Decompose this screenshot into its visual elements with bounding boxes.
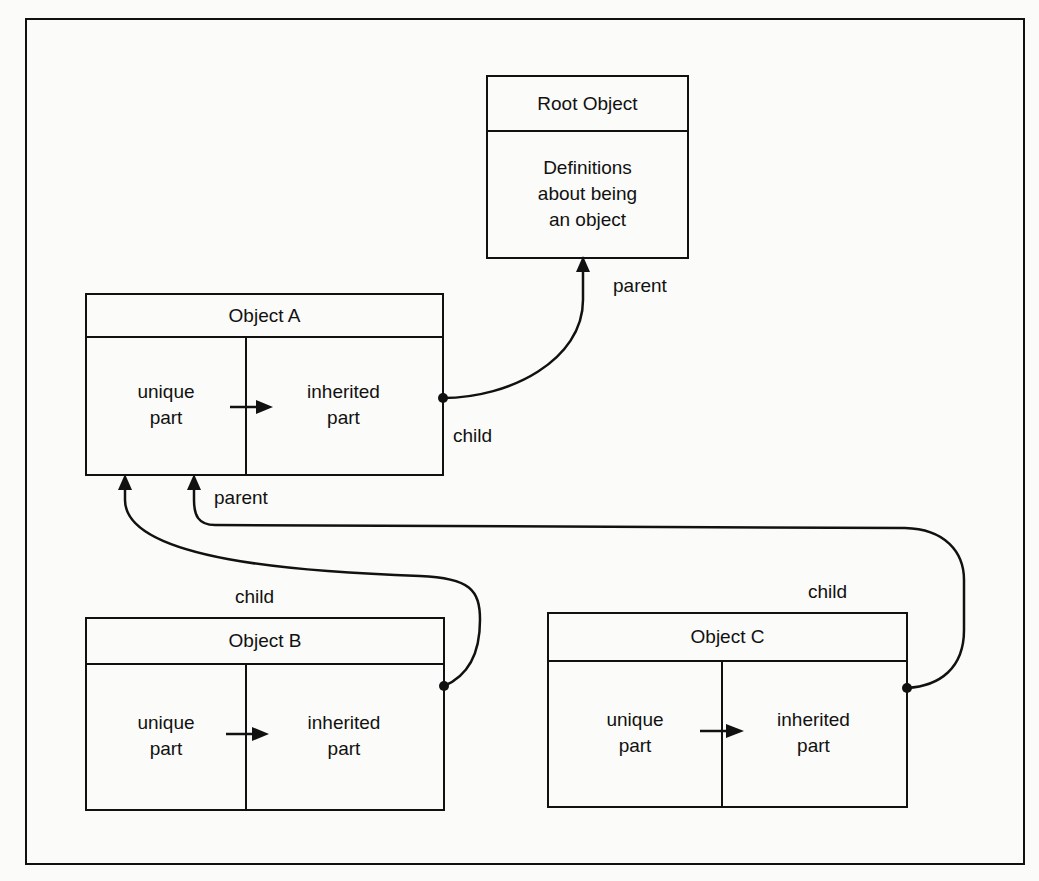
object-c-unique-part: unique part — [549, 660, 723, 806]
root-object-body: Definitions about being an object — [488, 130, 687, 257]
object-b-inherited-part: inherited part — [245, 663, 443, 809]
root-object-title: Root Object — [488, 77, 687, 132]
object-b-child-label: child — [235, 586, 274, 608]
object-c-inherited-part: inherited part — [721, 660, 906, 806]
object-a-title: Object A — [87, 295, 442, 338]
object-c-box: Object C unique part inherited part — [547, 612, 908, 808]
root-object-box: Root Object Definitions about being an o… — [486, 75, 689, 259]
root-parent-label: parent — [613, 275, 667, 297]
object-a-inherited-part: inherited part — [245, 336, 442, 474]
object-c-title: Object C — [549, 614, 906, 662]
object-b-box: Object B unique part inherited part — [85, 617, 445, 811]
object-b-title: Object B — [87, 619, 443, 665]
object-c-child-label: child — [808, 581, 847, 603]
object-b-unique-part: unique part — [87, 663, 247, 809]
object-a-parent-label: parent — [214, 487, 268, 509]
object-a-child-label: child — [453, 425, 492, 447]
object-a-box: Object A unique part inherited part — [85, 293, 444, 476]
object-a-unique-part: unique part — [87, 336, 247, 474]
